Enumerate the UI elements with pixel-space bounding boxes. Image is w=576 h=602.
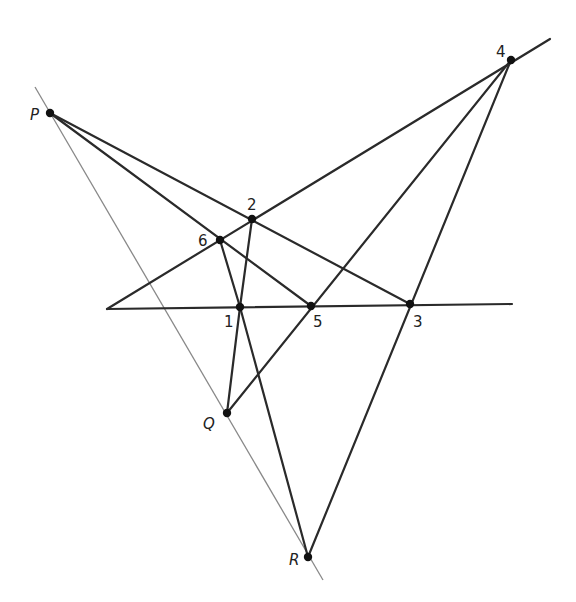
geometry-diagram: PQR123456	[0, 0, 576, 602]
point-4	[507, 56, 515, 64]
line-1-R	[240, 307, 308, 557]
line-Q-5-4	[227, 60, 511, 413]
line-PQR	[35, 87, 323, 580]
thin-lines-group	[35, 87, 323, 580]
label-P: P	[30, 106, 40, 124]
point-1	[236, 303, 244, 311]
label-1: 1	[224, 313, 234, 331]
point-5	[307, 302, 315, 310]
label-5: 5	[313, 313, 323, 331]
point-6	[216, 236, 224, 244]
lines-group	[50, 39, 550, 557]
label-4: 4	[496, 43, 506, 61]
label-Q: Q	[203, 415, 215, 433]
label-2: 2	[247, 196, 257, 214]
line-R-3-4	[308, 60, 511, 557]
point-Q	[223, 409, 231, 417]
point-2	[248, 215, 256, 223]
label-6: 6	[198, 232, 208, 250]
point-3	[406, 300, 414, 308]
point-R	[304, 553, 312, 561]
label-R: R	[289, 551, 299, 569]
label-3: 3	[413, 313, 423, 331]
line-2-1	[240, 219, 252, 307]
point-P	[46, 109, 54, 117]
line-62-4	[107, 39, 550, 309]
